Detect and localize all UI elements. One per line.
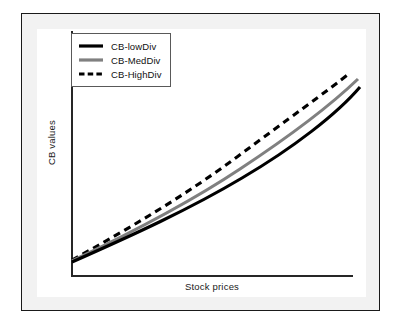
legend-item-cb-lowdiv[interactable]: CB-lowDiv — [78, 39, 162, 53]
series-path-cb-meddiv — [72, 79, 358, 261]
legend-item-cb-meddiv[interactable]: CB-MedDiv — [78, 53, 162, 67]
chart-legend[interactable]: CB-lowDiv CB-MedDiv CB-HighDiv — [71, 33, 171, 87]
legend-label-cb-highdiv: CB-HighDiv — [111, 69, 162, 80]
y-axis-title: CB values — [46, 73, 57, 213]
legend-item-cb-highdiv[interactable]: CB-HighDiv — [78, 67, 162, 81]
line-swatch-solid-gray-icon — [78, 54, 104, 66]
x-axis-title: Stock prices — [71, 281, 353, 292]
legend-label-cb-meddiv: CB-MedDiv — [111, 55, 160, 66]
legend-label-cb-lowdiv: CB-lowDiv — [111, 41, 156, 52]
plot-canvas: CB-lowDiv CB-MedDiv CB-HighDiv — [37, 29, 366, 297]
series-path-cb-highdiv — [72, 73, 350, 260]
line-swatch-solid-black-icon — [78, 40, 104, 52]
figure-frame: CB-lowDiv CB-MedDiv CB-HighDiv — [21, 13, 380, 311]
line-swatch-dashed-black-icon — [78, 68, 104, 80]
